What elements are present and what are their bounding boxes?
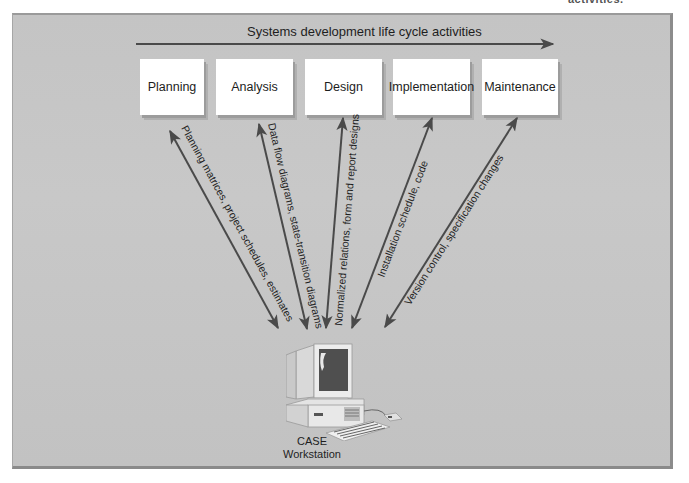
workstation-label-line2: Workstation: [276, 448, 348, 461]
workstation-label-line1: CASE: [276, 435, 348, 448]
computer-workstation-icon[interactable]: [286, 341, 416, 441]
implementation-arrow-label: Installation schedule, code: [375, 159, 430, 279]
planning-connection-arrow: [170, 131, 278, 328]
design-arrow-label: Normalized relations, form and report de…: [332, 113, 361, 326]
implementation-connection-arrow: [352, 118, 432, 328]
workstation-label: CASE Workstation: [276, 435, 348, 461]
